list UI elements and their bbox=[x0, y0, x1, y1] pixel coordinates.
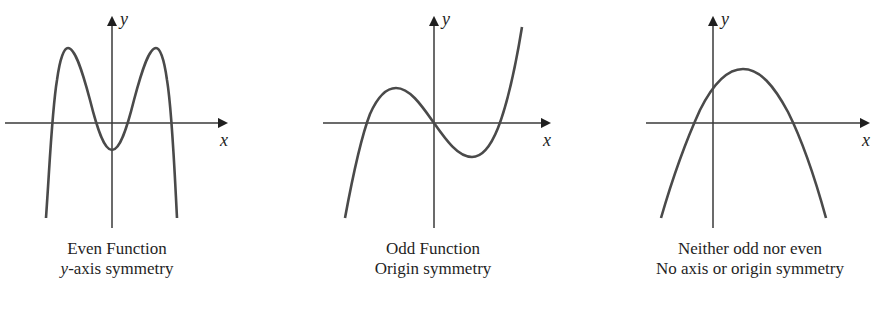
y-axis-label: y bbox=[440, 9, 450, 29]
y-axis-label: y bbox=[719, 9, 729, 29]
x-axis-label: x bbox=[542, 130, 551, 150]
x-axis-label: x bbox=[219, 130, 228, 150]
caption-subtitle: No axis or origin symmetry bbox=[630, 259, 870, 279]
caption-subtitle: y-axis symmetry bbox=[22, 259, 212, 279]
odd-function-caption: Odd Function Origin symmetry bbox=[338, 239, 528, 279]
even-function-caption: Even Function y-axis symmetry bbox=[22, 239, 212, 279]
caption-subtitle: Origin symmetry bbox=[338, 259, 528, 279]
x-axis-label: x bbox=[861, 130, 870, 150]
neither-function-caption: Neither odd nor even No axis or origin s… bbox=[630, 239, 870, 279]
caption-title: Odd Function bbox=[338, 239, 528, 259]
neither-function-graph: x y bbox=[646, 9, 870, 228]
odd-function-graph: x y bbox=[323, 9, 551, 228]
even-function-graph: x y bbox=[5, 9, 228, 228]
y-axis-label: y bbox=[118, 9, 128, 29]
caption-title: Even Function bbox=[22, 239, 212, 259]
neither-function-curve bbox=[661, 69, 826, 218]
caption-title: Neither odd nor even bbox=[630, 239, 870, 259]
